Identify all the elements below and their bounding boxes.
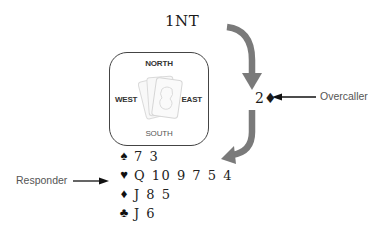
heart-cards: Q 10 9 7 5 4 [134,168,233,183]
club-cards: J 6 [134,206,156,221]
overcall-bid: 2♦ [255,90,276,106]
arrow-right-icon [73,178,109,185]
curved-arrow-left-icon [221,110,252,164]
east-label: EAST [181,95,202,104]
spade-icon: ♠ [114,148,134,164]
south-label: SOUTH [110,129,208,138]
hand-row-spades: ♠ 7 3 [114,148,159,164]
compass-table: NORTH WEST EAST SOUTH [109,52,209,146]
club-icon: ♣ [114,205,134,221]
hand-row-diamonds: ♦ J 8 5 [114,186,172,202]
diamond-cards: J 8 5 [134,187,172,202]
diamond-icon: ♦ [114,186,134,202]
overcaller-label: Overcaller [320,90,368,102]
responder-label: Responder [16,174,67,186]
north-label: NORTH [110,59,208,68]
hand-row-hearts: ♥ Q 10 9 7 5 4 [114,167,233,183]
playing-cards-icon [138,71,184,129]
west-label: WEST [115,95,137,104]
heart-icon: ♥ [114,167,134,183]
curved-arrow-down-icon [227,27,262,90]
arrow-left-icon [272,94,316,101]
spade-cards: 7 3 [134,149,159,164]
hand-row-clubs: ♣ J 6 [114,205,156,221]
